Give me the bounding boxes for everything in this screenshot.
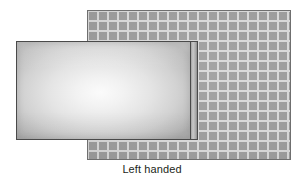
left-handed-panel xyxy=(16,41,191,140)
left-handed-figure: Left handed xyxy=(0,0,304,178)
figure-caption: Left handed xyxy=(0,162,304,176)
panel-inner-shadow xyxy=(17,42,190,139)
panel-sheen-overlay xyxy=(17,42,190,139)
